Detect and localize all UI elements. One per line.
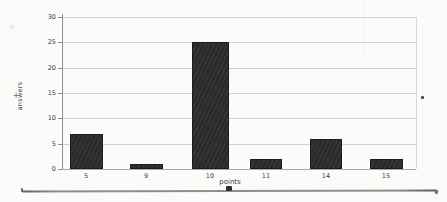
x-axis-line — [62, 169, 416, 170]
underline-center-mark — [226, 186, 232, 191]
gridline-5 — [62, 144, 416, 145]
bar-15 — [370, 159, 403, 169]
bar-10 — [192, 42, 229, 169]
x-tick-label-11: 11 — [251, 172, 281, 180]
x-tick-label-5: 5 — [71, 172, 101, 180]
bar-9 — [130, 164, 163, 169]
bar-5 — [70, 134, 103, 169]
plot-right-border — [416, 17, 417, 169]
y-tick-label-15: 15 — [34, 89, 56, 97]
underline-left-hook — [21, 188, 23, 192]
y-tick-label-25: 25 — [34, 38, 56, 46]
right-margin-dot-mark — [421, 96, 424, 99]
x-axis-title: points — [205, 178, 255, 186]
y-tick-label-20: 20 — [34, 64, 56, 72]
gridline-15 — [62, 93, 416, 94]
x-tick-label-15: 15 — [371, 172, 401, 180]
y-tick-label-10: 10 — [34, 114, 56, 122]
x-tick-label-14: 14 — [311, 172, 341, 180]
gridline-20 — [62, 68, 416, 69]
bar-11 — [250, 159, 282, 169]
bar-14 — [310, 139, 342, 169]
left-margin-plus-mark: + — [11, 91, 21, 101]
gridline-10 — [62, 118, 416, 119]
y-axis-line — [62, 14, 63, 169]
x-tick-label-9: 9 — [131, 172, 161, 180]
gridline-30 — [62, 17, 416, 18]
scanned-chart-page: answers 0510152025305910111415 points + — [0, 0, 447, 202]
plot-area: 0510152025305910111415 — [0, 0, 447, 202]
gridline-25 — [62, 42, 416, 43]
y-tick-label-0: 0 — [34, 165, 56, 173]
y-tick-label-30: 30 — [34, 13, 56, 21]
y-tick-label-5: 5 — [34, 140, 56, 148]
